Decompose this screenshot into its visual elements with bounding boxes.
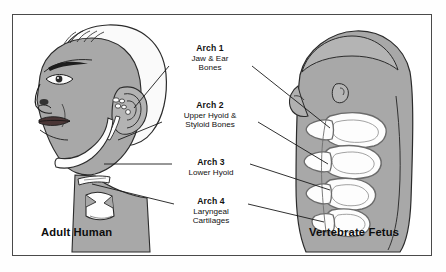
arch-4-desc-line-1: Laryngeal bbox=[176, 207, 246, 217]
adult-human-figure bbox=[35, 25, 166, 252]
arch-4-desc-line-2: Cartilages bbox=[176, 216, 246, 226]
label-arch-2: Arch 2 Upper Hyoid & Styloid Bones bbox=[164, 100, 256, 130]
arch-1-title: Arch 1 bbox=[171, 43, 249, 54]
arch-4-title: Arch 4 bbox=[176, 196, 246, 207]
laryngeal-cartilages bbox=[86, 192, 114, 219]
arch-2-desc-line-1: Upper Hyoid & bbox=[164, 111, 256, 121]
label-arch-1: Arch 1 Jaw & Ear Bones bbox=[171, 43, 249, 73]
figure-canvas: Arch 1 Jaw & Ear Bones Arch 2 Upper Hyoi… bbox=[0, 0, 446, 272]
vertebrate-fetus-figure bbox=[289, 31, 412, 252]
arch-1-desc-line-1: Jaw & Ear bbox=[171, 54, 249, 64]
arch-3-title: Arch 3 bbox=[174, 157, 248, 168]
fetus-eye bbox=[332, 84, 348, 103]
arch-3-desc-line-1: Lower Hyoid bbox=[174, 168, 248, 178]
arch-2-desc-line-2: Styloid Bones bbox=[164, 120, 256, 130]
caption-left: Adult Human bbox=[41, 226, 112, 238]
arch-2-title: Arch 2 bbox=[164, 100, 256, 111]
arch-1-desc-line-2: Bones bbox=[171, 63, 249, 73]
caption-right: Vertebrate Fetus bbox=[309, 226, 399, 238]
label-arch-3: Arch 3 Lower Hyoid bbox=[174, 157, 248, 177]
label-arch-4: Arch 4 Laryngeal Cartilages bbox=[176, 196, 246, 226]
